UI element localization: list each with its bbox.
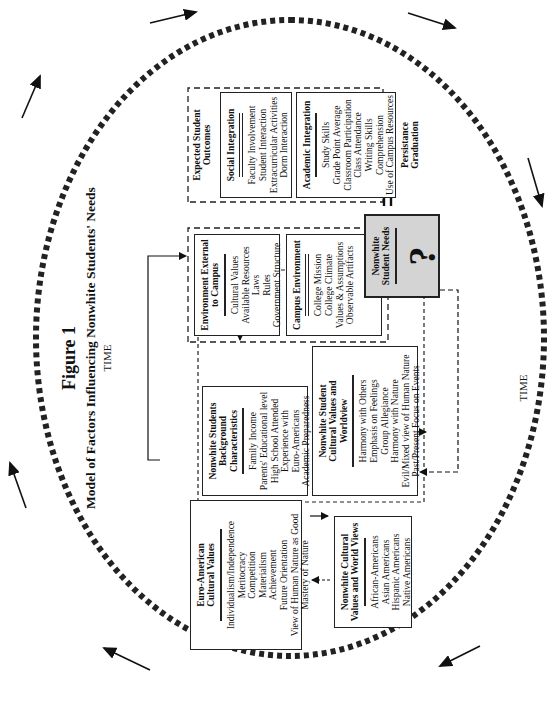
external-environment-box: Environment External to Campus Cultural …	[194, 234, 280, 336]
list-item: Comprehension	[375, 95, 386, 195]
academic-integration-items: Study Skills Grade Point Average Classro…	[321, 95, 395, 195]
academic-integration-box: Academic Integration Study Skills Grade …	[296, 92, 396, 198]
list-item: Group Allegiance	[380, 355, 391, 488]
list-item: African-Americans	[370, 534, 381, 611]
list-item: Graduation	[410, 94, 420, 196]
nonwhite-cultural-items: African-Americans Asian Americans Hispan…	[370, 534, 413, 611]
list-item: Faculty Involvement	[247, 97, 258, 193]
academic-integration-title: Academic Integration	[302, 101, 312, 189]
euro-american-values-box: Euro-American Cultural Values Individual…	[190, 500, 302, 650]
list-item: Laws	[251, 243, 262, 328]
student-needs-title: Nonwhite Student Needs	[371, 220, 392, 292]
list-item: Class Attendance	[353, 95, 364, 195]
list-item: Rules	[262, 243, 273, 328]
title-rule	[364, 538, 366, 606]
title-rule	[224, 254, 226, 316]
list-item: Use of Campus Resources	[385, 95, 396, 195]
social-integration-items: Faculty Involvement Student Interaction …	[247, 97, 290, 193]
list-item: Euro-Americans	[291, 392, 302, 490]
list-item: Cultural Values	[230, 243, 241, 328]
list-item: Academic Preparedness	[301, 392, 312, 490]
nonwhite-cultural-title: Nonwhite Cultural Values and World Views	[340, 520, 361, 624]
background-items: Family Income Parents' Educational level…	[248, 392, 312, 490]
list-item: Classroom Participation	[343, 95, 354, 195]
list-item: Past/Present Focus on Events	[411, 355, 422, 488]
list-item: Hispanic Americans	[391, 534, 402, 611]
social-integration-box: Social Integration Faculty Involvement S…	[220, 92, 292, 198]
outcomes-title: Expected Student Outcomes	[192, 94, 213, 196]
list-item: Competition	[247, 514, 258, 637]
student-worldview-box: Nonwhite Student Cultural Values and Wor…	[312, 346, 418, 496]
list-item: Achievement	[268, 514, 279, 637]
list-item: Values & Assumptions	[335, 242, 346, 329]
time-label-bottom: TIME	[518, 358, 530, 418]
list-item: College Mission	[313, 242, 324, 329]
title-rule	[242, 408, 244, 475]
student-worldview-items: Harmony with Others Emphasis on Feelings…	[358, 355, 422, 488]
background-characteristics-box: Nonwhite Students Background Characteris…	[202, 386, 308, 496]
persistence-graduation: Persistance Graduation	[400, 94, 421, 196]
list-item: High School Attended	[270, 392, 281, 490]
list-item: Individualism/Independence	[226, 514, 237, 637]
list-item: Native Americans	[402, 534, 413, 611]
list-item: Evil/Mixed view of Human Nature	[401, 355, 412, 488]
title-rule	[220, 529, 222, 621]
list-item: Writing Skills	[364, 95, 375, 195]
list-item: Observable Artifacts	[345, 242, 356, 329]
list-item: View of Human Nature as Good	[290, 514, 301, 637]
nonwhite-cultural-values-box: Nonwhite Cultural Values and World Views…	[334, 516, 412, 628]
list-item: Available Resources	[241, 243, 252, 328]
list-item: Government Structure	[272, 243, 283, 328]
figure-canvas: Figure 1 Model of Factors Influencing No…	[0, 0, 554, 718]
campus-environment-items: College Mission College Climate Values &…	[313, 242, 356, 329]
campus-environment-title: Campus Environment	[292, 237, 302, 333]
list-item: Harmony with Others	[358, 355, 369, 488]
title-rule	[395, 228, 397, 284]
student-worldview-title: Nonwhite Student Cultural Values and Wor…	[318, 376, 349, 466]
list-item: Family Income	[248, 392, 259, 490]
time-label-top: TIME	[102, 328, 114, 388]
list-item: Asian Americans	[381, 534, 392, 611]
list-item: Parents' Educational level	[259, 392, 270, 490]
euro-american-items: Individualism/Independence Meritocracy C…	[226, 514, 311, 637]
list-item: Emphasis on Feelings	[369, 355, 380, 488]
title-rule	[315, 113, 317, 177]
question-mark-icon: ?	[403, 247, 441, 266]
list-item: Student Interaction	[258, 97, 269, 193]
title-rule	[305, 254, 309, 316]
external-environment-items: Cultural Values Available Resources Laws…	[230, 243, 283, 328]
euro-american-title: Euro-American Cultural Values	[196, 530, 217, 620]
list-item: Extracurricular Activities	[269, 97, 280, 193]
equals-sign	[384, 198, 391, 206]
list-item: College Climate	[324, 242, 335, 329]
list-item: Dorm Interaction	[279, 97, 290, 193]
title-rule	[239, 113, 243, 177]
title-rule	[352, 375, 354, 467]
list-item: Materialism	[258, 514, 269, 637]
student-needs-box: Nonwhite Student Needs ?	[364, 214, 440, 298]
figure-subtitle: Model of Factors Influencing Nonwhite St…	[84, 138, 98, 558]
figure-title: Figure 1	[60, 238, 79, 478]
list-item: Harmony with Nature	[390, 355, 401, 488]
list-item: Meritocracy	[237, 514, 248, 637]
list-item: Study Skills	[321, 95, 332, 195]
connector-euro-to-external	[148, 256, 186, 460]
list-item: Experience with	[280, 392, 291, 490]
list-item: Persistance	[400, 94, 410, 196]
social-integration-title: Social Integration	[226, 109, 236, 182]
external-environment-title: Environment External to Campus	[200, 237, 221, 333]
list-item: Mastery of Nature	[300, 514, 311, 637]
list-item: Future Orientation	[279, 514, 290, 637]
background-title: Nonwhite Students Background Characteris…	[208, 393, 239, 489]
list-item: Grade Point Average	[332, 95, 343, 195]
